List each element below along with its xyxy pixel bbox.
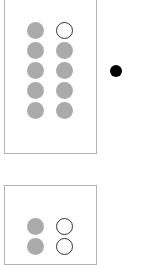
filled-dot bbox=[27, 218, 44, 235]
panel-1 bbox=[4, 0, 97, 154]
filled-dot bbox=[27, 102, 44, 119]
panel-2 bbox=[4, 185, 97, 265]
filled-dot bbox=[56, 82, 73, 99]
empty-dot bbox=[56, 218, 73, 235]
bullet-marker-icon bbox=[110, 65, 122, 77]
filled-dot bbox=[56, 42, 73, 59]
empty-dot bbox=[56, 22, 73, 39]
filled-dot bbox=[27, 42, 44, 59]
empty-dot bbox=[56, 238, 73, 255]
filled-dot bbox=[27, 82, 44, 99]
filled-dot bbox=[27, 62, 44, 79]
filled-dot bbox=[27, 238, 44, 255]
filled-dot bbox=[56, 102, 73, 119]
filled-dot bbox=[56, 62, 73, 79]
filled-dot bbox=[27, 22, 44, 39]
